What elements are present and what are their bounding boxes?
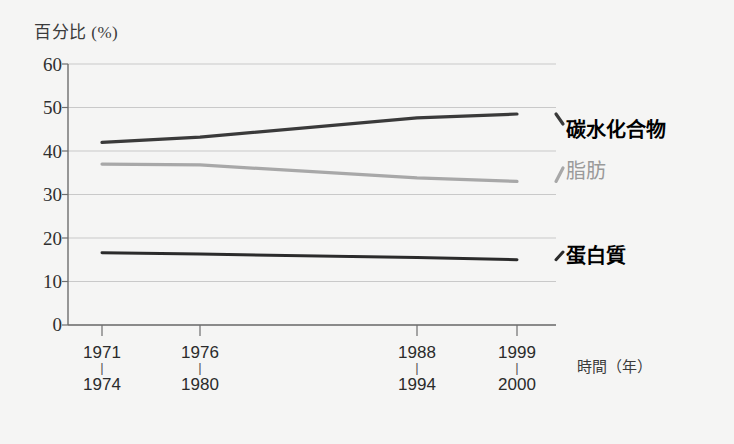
series-line-0 [102, 114, 517, 142]
series-line-2 [102, 253, 517, 260]
chart-container: 百分比 (%) 時間（年） 60 50 40 30 20 10 0 1971 |… [0, 0, 734, 444]
label-leader-0 [556, 114, 563, 124]
y-tick-marks-group [62, 64, 68, 325]
label-leader-2 [556, 252, 563, 260]
chart-plot-svg [0, 0, 734, 444]
gridlines-group [68, 64, 556, 325]
label-leader-lines-group [556, 114, 563, 260]
x-tick-marks-group [102, 325, 517, 336]
label-leader-1 [556, 168, 563, 181]
series-line-1 [102, 164, 517, 181]
